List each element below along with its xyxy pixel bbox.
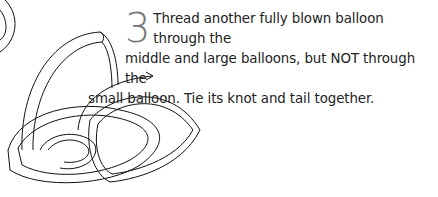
- large-balloon-loop: [8, 106, 160, 182]
- step-line-1: Thread another fully blown balloon throu…: [153, 11, 383, 46]
- step-line-2: middle and large balloons, but NOT throu…: [125, 51, 415, 86]
- partial-balloon-arc: [0, 0, 15, 52]
- step-number: 3: [125, 11, 150, 45]
- step-line-3: small balloon. Tie its knot and tail tog…: [88, 91, 374, 106]
- step-instruction: 3 Thread another fully blown balloon thr…: [125, 9, 435, 109]
